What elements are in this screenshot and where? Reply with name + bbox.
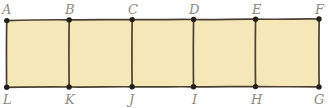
vertex-label-c: C (128, 3, 138, 16)
vertex-dot-E (253, 17, 258, 22)
vertex-label-j: J (129, 93, 134, 106)
square-fill-4 (194, 19, 256, 87)
square-fills (7, 19, 320, 87)
vertex-dot-A (4, 18, 9, 23)
vertex-dot-L (4, 85, 9, 90)
vertex-dot-J (129, 84, 134, 89)
square-fill-1 (7, 20, 70, 87)
vertex-label-h: H (251, 93, 262, 106)
vertex-dot-G (316, 84, 321, 89)
vertex-label-b: B (65, 3, 75, 16)
five-squares-diagram (0, 0, 329, 108)
vertex-dot-D (191, 17, 196, 22)
vertex-dot-F (316, 16, 321, 21)
square-fill-5 (256, 19, 320, 87)
vertex-dot-I (191, 84, 196, 89)
vertex-label-a: A (2, 3, 11, 16)
vertex-label-d: D (189, 3, 199, 16)
vertex-label-f: F (315, 3, 324, 16)
vertex-dot-C (130, 17, 135, 22)
figure-canvas: A B C D E F L K J I H G (0, 0, 329, 108)
vertex-label-i: I (192, 93, 197, 106)
vertex-dot-H (253, 84, 258, 89)
vertex-label-g: G (314, 93, 324, 106)
square-fill-3 (132, 20, 194, 87)
vertex-label-e: E (252, 3, 262, 16)
bottom-edge-LG (7, 87, 320, 88)
vertex-label-l: L (3, 93, 12, 106)
vertex-dot-K (66, 84, 71, 89)
vertex-dot-B (67, 17, 72, 22)
vertex-label-k: K (65, 93, 75, 106)
square-fill-2 (69, 20, 132, 87)
